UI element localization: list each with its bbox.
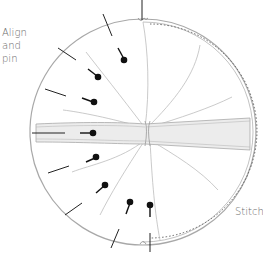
pin-icon [147,202,152,217]
align-and-pin-label: Align and pin [2,26,27,65]
pin-icon [82,98,97,105]
pin-icon [126,199,133,214]
pin-icon [118,48,127,63]
align-label-line-1: Align [2,26,27,39]
sewing-diagram [0,0,263,262]
align-label-line-2: and [2,39,27,52]
strap-band [36,118,250,150]
pin-icon [96,182,108,193]
pin-icon [86,154,99,162]
stitch-label: Stitch [235,205,263,218]
pin-icon [88,69,101,80]
align-label-line-3: pin [2,52,27,65]
